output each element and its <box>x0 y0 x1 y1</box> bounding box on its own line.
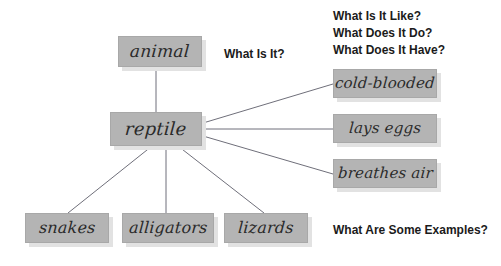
concept-node-lays-eggs[interactable]: lays eggs <box>333 114 437 143</box>
concept-node-label: lays eggs <box>348 121 421 136</box>
concept-node-snakes[interactable]: snakes <box>25 213 109 243</box>
connector-reptile-to-snakes <box>68 146 152 213</box>
concept-node-label: cold-blooded <box>335 76 436 91</box>
concept-node-reptile[interactable]: reptile <box>110 112 202 146</box>
concept-node-breathes-air[interactable]: breathes air <box>333 159 437 188</box>
connector-reptile-to-breathes-air <box>203 136 333 174</box>
concept-map-diagram: animalreptilecold-bloodedlays eggsbreath… <box>0 0 501 266</box>
concept-node-label: animal <box>130 43 191 60</box>
concept-node-animal[interactable]: animal <box>118 36 202 67</box>
concept-node-label: lizards <box>238 220 295 236</box>
connector-reptile-to-lizards <box>178 146 264 213</box>
concept-node-alligators[interactable]: alligators <box>122 213 214 243</box>
concept-node-label: reptile <box>125 120 188 138</box>
question-label-examples-question: What Are Some Examples? <box>333 222 488 239</box>
concept-node-label: snakes <box>38 220 96 236</box>
question-label-what-is-it: What Is It? <box>224 46 285 63</box>
connector-reptile-to-cold-blooded <box>203 84 333 123</box>
question-label-line: What Does It Do? <box>333 25 445 42</box>
question-label-attributes-questions: What Is It Like?What Does It Do?What Doe… <box>333 8 445 59</box>
question-label-line: What Are Some Examples? <box>333 222 488 239</box>
concept-node-cold-blooded[interactable]: cold-blooded <box>333 69 437 98</box>
question-label-line: What Is It Like? <box>333 8 445 25</box>
concept-node-label: breathes air <box>337 166 433 181</box>
concept-node-label: alligators <box>128 220 208 236</box>
concept-node-lizards[interactable]: lizards <box>224 213 308 243</box>
question-label-line: What Does It Have? <box>333 42 445 59</box>
question-label-line: What Is It? <box>224 46 285 63</box>
